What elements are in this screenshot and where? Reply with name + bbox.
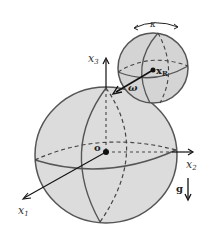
x3-label: x3 bbox=[88, 52, 99, 66]
x2-label: x2 bbox=[186, 158, 197, 172]
kappa-label: κ bbox=[149, 19, 156, 29]
gravity-arrow: g bbox=[176, 178, 191, 200]
gravity-label: g bbox=[176, 183, 183, 194]
origin-label: o bbox=[94, 142, 101, 153]
diagram-canvas: κ x3 xR ω o x2 x1 g bbox=[0, 0, 212, 230]
kappa-rotation-arrow: κ bbox=[134, 19, 178, 30]
x3-axis: x3 bbox=[88, 52, 109, 88]
x1-label: x1 bbox=[18, 204, 29, 218]
omega-label: ω bbox=[128, 82, 138, 93]
